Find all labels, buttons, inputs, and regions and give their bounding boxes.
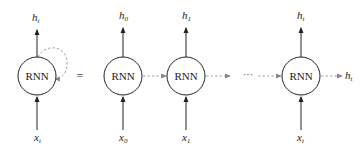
unrolled-cell-t: RNN ht ht xt bbox=[282, 9, 354, 145]
output-label: h0 bbox=[119, 9, 129, 23]
output-label: h1 bbox=[182, 9, 191, 23]
unrolled-cell-0: RNN h0 x0 bbox=[104, 9, 142, 145]
ellipsis: ··· bbox=[243, 69, 253, 80]
rnn-cell-label: RNN bbox=[25, 70, 48, 82]
input-label: x1 bbox=[181, 131, 190, 145]
rnn-cell-label: RNN bbox=[111, 70, 134, 82]
output-label: ht bbox=[297, 9, 306, 23]
equals-sign: = bbox=[77, 69, 84, 83]
unrolled-cell-1: RNN h1 x1 bbox=[167, 9, 205, 145]
input-label: xt bbox=[33, 131, 42, 145]
rnn-cell-label: RNN bbox=[289, 70, 312, 82]
input-label: x0 bbox=[118, 131, 128, 145]
folded-rnn: RNN ht xt bbox=[18, 11, 67, 145]
rnn-diagram: RNN ht xt = RNN h0 x0 RNN h1 x1 ··· RNN … bbox=[0, 0, 362, 149]
rnn-cell-label: RNN bbox=[174, 70, 197, 82]
input-label: xt bbox=[296, 131, 305, 145]
output-label: ht bbox=[32, 11, 41, 25]
hidden-state-output-label: ht bbox=[345, 69, 354, 83]
